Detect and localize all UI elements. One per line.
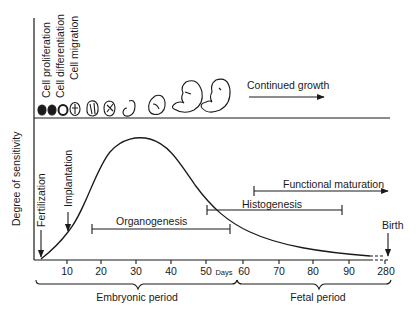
label-continued-growth: Continued growth [247,79,329,91]
y-axis-label: Degree of sensitivity [10,131,22,226]
embryo-icon-3 [59,105,68,115]
embryo-icon-10 [201,79,230,112]
tick-280: 280 [377,265,395,277]
x-axis-tick-labels: 10 20 30 40 50 60 70 80 90 280 Days [61,265,395,277]
label-organogenesis: Organogenesis [116,215,187,227]
sensitivity-curve [41,138,370,259]
x-axis-label-days: Days [215,268,232,277]
label-functional-maturation: Functional maturation [283,178,384,190]
tick-40: 40 [165,265,177,277]
embryo-icon-5 [87,101,98,116]
tick-80: 80 [307,265,319,277]
tick-90: 90 [343,265,355,277]
label-fetal-period: Fetal period [290,291,346,303]
embryonic-period-brace [36,280,237,289]
label-cell-differentiation: Cell differentiation [54,14,66,98]
label-embryonic-period: Embryonic period [96,291,178,303]
label-fertilization: Fertilization [35,173,47,227]
tick-70: 70 [273,265,285,277]
fetal-period-brace [237,280,391,289]
embryo-icon-9 [172,81,202,113]
label-birth: Birth [382,219,404,231]
embryo-icon-8 [149,95,166,114]
tick-60: 60 [238,265,250,277]
tick-30: 30 [130,265,142,277]
tick-20: 20 [95,265,107,277]
label-cell-proliferation: Cell proliferation [40,22,52,98]
embryo-icon-7 [123,101,135,117]
embryo-icon-6 [104,101,115,116]
embryo-icon-1 [38,105,46,115]
label-histogenesis: Histogenesis [242,198,302,210]
embryo-icon-2 [48,105,56,115]
embryo-stage-icons [38,79,230,116]
label-implantation: Implantation [62,150,74,207]
development-diagram: Cell proliferation Cell differentiation … [0,0,417,313]
label-cell-migration: Cell migration [68,16,80,80]
tick-50: 50 [200,265,212,277]
tick-10: 10 [61,265,73,277]
